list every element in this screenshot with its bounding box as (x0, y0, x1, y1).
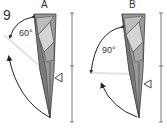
panel-a-label: A (41, 0, 48, 10)
angle-label-b: 90° (102, 45, 116, 55)
rotate-arrow-b[interactable] (102, 85, 137, 117)
panel-b-label: B (129, 0, 136, 10)
folded-model-b (122, 14, 145, 118)
measure-line-a (70, 13, 74, 122)
view-arrow-b-icon (144, 80, 151, 88)
angle-label-a: 60° (19, 28, 33, 38)
step-number: 9 (3, 7, 11, 23)
measure-line-b (159, 13, 163, 122)
panel-a: A 60° (4, 0, 74, 122)
origami-diagram: 9 A 60° B (0, 0, 167, 128)
panel-b: B 90° (91, 0, 163, 122)
view-arrow-a-icon (55, 73, 62, 82)
folded-model-a (34, 14, 56, 118)
